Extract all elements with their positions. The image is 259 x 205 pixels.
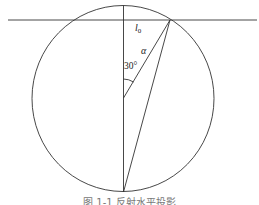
circle	[32, 6, 214, 192]
angle-arc	[124, 79, 134, 82]
circle-geometry-diagram: l0 α 30°	[0, 0, 259, 205]
figure-caption: 图 1-1 反射水平投影	[0, 194, 259, 205]
label-l0: l0	[135, 22, 142, 35]
chord-line	[124, 20, 171, 192]
label-angle-30: 30°	[124, 61, 138, 71]
label-alpha: α	[141, 45, 147, 56]
radius-line	[124, 20, 171, 98]
